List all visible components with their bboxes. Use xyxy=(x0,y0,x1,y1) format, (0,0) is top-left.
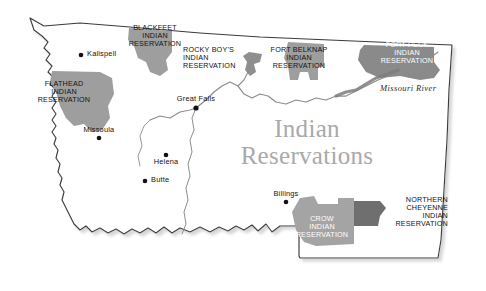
city-dot-great-falls xyxy=(193,105,198,110)
city-dot-billings xyxy=(284,200,289,205)
city-dot-butte xyxy=(143,179,148,184)
map-graphic-layer xyxy=(0,0,486,291)
montana-indian-reservations-map: BLACKFEET INDIAN RESERVATION FLATHEAD IN… xyxy=(0,0,486,291)
city-dot-missoula xyxy=(97,136,102,141)
city-dot-kalispell xyxy=(79,53,84,58)
city-dot-helena xyxy=(164,153,169,158)
